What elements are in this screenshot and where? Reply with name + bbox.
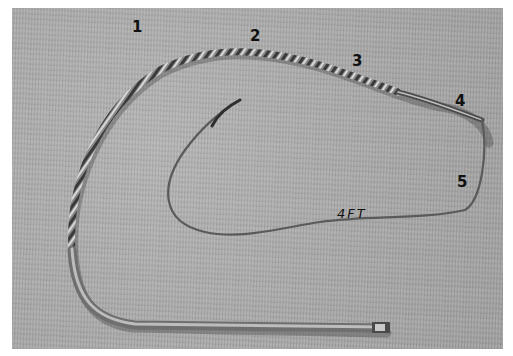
section-label-1: 1 xyxy=(132,18,142,36)
section-label-2: 2 xyxy=(250,27,260,45)
section-label-3: 3 xyxy=(352,52,362,70)
whip-handle xyxy=(72,250,385,328)
section-label-5: 5 xyxy=(457,173,467,191)
length-annotation: 4FT xyxy=(337,206,367,221)
whip-drawing xyxy=(12,8,503,349)
section-label-4: 4 xyxy=(455,92,465,110)
whip-photo: 1 2 3 4 5 4FT xyxy=(12,8,503,349)
